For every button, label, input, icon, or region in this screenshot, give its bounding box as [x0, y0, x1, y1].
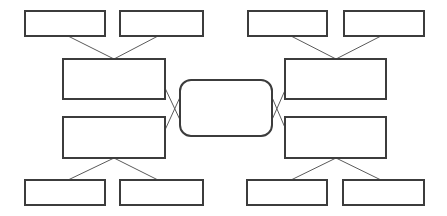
connector-line — [271, 95, 286, 130]
node-box[interactable] — [25, 11, 105, 36]
connector-line — [165, 88, 181, 122]
connector-line — [114, 158, 158, 180]
node-box[interactable] — [63, 59, 165, 99]
connector-line — [291, 36, 336, 59]
node-box[interactable] — [247, 180, 327, 205]
connector-line — [165, 95, 181, 130]
node-box[interactable] — [63, 117, 165, 158]
node-box[interactable] — [344, 11, 424, 36]
concept-map-diagram — [0, 0, 447, 216]
connector-line — [291, 158, 336, 180]
node-layer — [25, 11, 424, 205]
node-box[interactable] — [120, 11, 203, 36]
connector-line — [114, 36, 158, 59]
connector-line — [68, 158, 114, 180]
connector-line — [271, 88, 286, 122]
connector-line — [68, 36, 114, 59]
node-box[interactable] — [343, 180, 424, 205]
center-node-box[interactable] — [180, 80, 272, 136]
connector-line — [336, 36, 381, 59]
node-box[interactable] — [285, 117, 386, 158]
node-box[interactable] — [248, 11, 327, 36]
node-box[interactable] — [120, 180, 203, 205]
node-box[interactable] — [285, 59, 386, 99]
diagram-canvas — [0, 0, 447, 216]
connector-line — [336, 158, 381, 180]
node-box[interactable] — [25, 180, 105, 205]
